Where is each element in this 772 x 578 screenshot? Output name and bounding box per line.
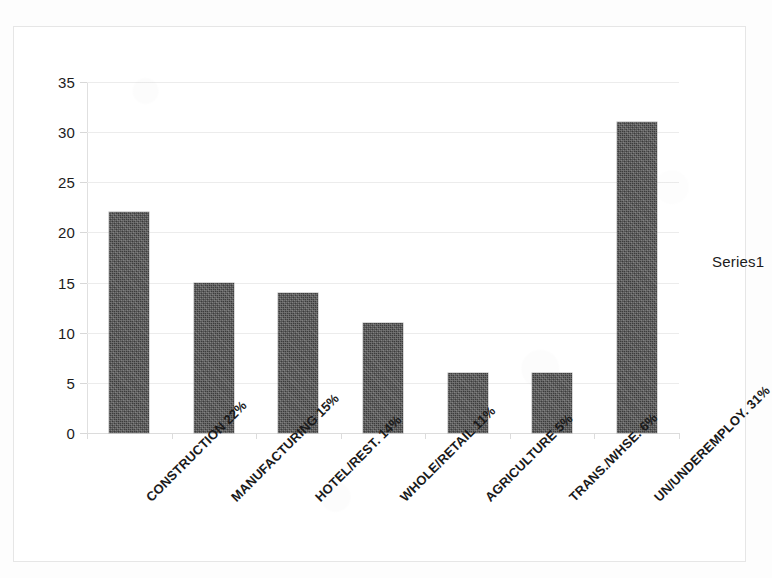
gridline-30 bbox=[87, 132, 679, 133]
x-tick-mark bbox=[341, 433, 342, 439]
y-tick-mark-30 bbox=[80, 132, 87, 133]
y-tick-mark-0 bbox=[80, 433, 87, 434]
y-tick-mark-20 bbox=[80, 232, 87, 233]
x-tick-mark bbox=[594, 433, 595, 439]
y-tick-mark-25 bbox=[80, 182, 87, 183]
x-axis-label: TRANS./WHSE. 6% bbox=[566, 494, 577, 505]
y-axis-label-5: 5 bbox=[66, 374, 75, 391]
x-axis-label: CONSTRUCTION 22% bbox=[143, 494, 154, 505]
chart-frame: 35302520151050 CONSTRUCTION 22%MANUFACTU… bbox=[13, 26, 746, 562]
x-axis-label: AGRICULTURE 5% bbox=[482, 494, 493, 505]
x-tick-mark bbox=[172, 433, 173, 439]
x-axis-label: HOTEL/REST. 14% bbox=[312, 494, 323, 505]
x-axis-label: MANUFACTURING 15% bbox=[228, 494, 239, 505]
gridline-20 bbox=[87, 232, 679, 233]
y-tick-mark-15 bbox=[80, 283, 87, 284]
y-axis-label-15: 15 bbox=[58, 274, 75, 291]
y-tick-mark-5 bbox=[80, 383, 87, 384]
x-tick-mark bbox=[256, 433, 257, 439]
x-tick-mark bbox=[87, 433, 88, 439]
y-axis-label-30: 30 bbox=[58, 124, 75, 141]
y-axis-label-20: 20 bbox=[58, 224, 75, 241]
x-axis-label: UN/UNDEREMPLOY. 31% bbox=[651, 494, 662, 505]
plot-area: 35302520151050 CONSTRUCTION 22%MANUFACTU… bbox=[87, 82, 679, 433]
bar bbox=[109, 212, 149, 433]
legend: Series1 bbox=[712, 253, 764, 270]
y-axis-label-35: 35 bbox=[58, 74, 75, 91]
y-axis-label-0: 0 bbox=[66, 425, 75, 442]
x-tick-mark bbox=[425, 433, 426, 439]
y-axis-label-10: 10 bbox=[58, 324, 75, 341]
x-axis-label: WHOLE/RETAIL 11% bbox=[397, 494, 408, 505]
x-tick-mark bbox=[510, 433, 511, 439]
gridline-15 bbox=[87, 283, 679, 284]
y-tick-mark-10 bbox=[80, 333, 87, 334]
gridline-25 bbox=[87, 182, 679, 183]
y-tick-mark-35 bbox=[80, 82, 87, 83]
bar bbox=[617, 122, 657, 433]
y-axis-label-25: 25 bbox=[58, 174, 75, 191]
legend-entry-series1: Series1 bbox=[712, 253, 764, 270]
gridline-35 bbox=[87, 82, 679, 83]
x-tick-mark bbox=[679, 433, 680, 439]
